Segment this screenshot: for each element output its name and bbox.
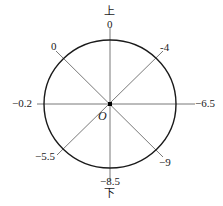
endpoint-label-top: 0 <box>107 19 113 30</box>
endpoint-label-top-right: -4 <box>160 42 169 53</box>
endpoint-label-top-left: 0 <box>51 41 57 52</box>
direction-label-bottom: 下 <box>104 188 115 199</box>
endpoint-label-left: −0.2 <box>12 98 32 109</box>
endpoint-label-bottom: −8.5 <box>100 176 120 187</box>
center-point <box>108 102 112 106</box>
endpoint-label-bottom-left: −5.5 <box>35 151 55 162</box>
endpoint-label-bottom-right: −9 <box>159 157 171 168</box>
endpoint-label-right: −6.5 <box>195 98 215 109</box>
origin-label: O <box>98 111 107 122</box>
direction-label-top: 上 <box>104 6 115 17</box>
